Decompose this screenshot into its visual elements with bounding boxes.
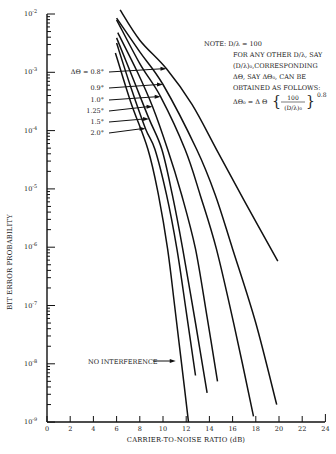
- y-tick-label: 10-5: [24, 183, 37, 193]
- y-tick-label: 10-6: [24, 241, 37, 251]
- x-tick-label: 0: [45, 425, 49, 433]
- y-tick-label: 10-3: [24, 66, 37, 76]
- arrow-line: [109, 129, 141, 133]
- curve-no-interference: [115, 53, 188, 422]
- delta-label: 2.0°: [90, 129, 104, 137]
- formula-brace-right: }: [306, 93, 315, 109]
- bit-error-chart: 10-210-310-410-510-610-710-810-9 0246810…: [0, 0, 336, 454]
- y-axis-tick-labels: 10-210-310-410-510-610-710-810-9: [24, 8, 37, 426]
- x-tick-label: 24: [321, 425, 329, 433]
- note-block: NOTE: D/λ = 100 FOR ANY OTHER D/λ, SAY (…: [204, 40, 327, 111]
- arrow-line: [109, 107, 148, 111]
- y-tick-label: 10-9: [24, 416, 37, 426]
- formula-brace-left: {: [272, 93, 281, 109]
- arrow-line: [109, 85, 158, 88]
- x-tick-label: 8: [138, 425, 142, 433]
- y-axis-ticks: [47, 14, 55, 422]
- delta-label: 1.5°: [90, 118, 104, 126]
- x-tick-label: 12: [182, 425, 190, 433]
- x-tick-label: 22: [298, 425, 306, 433]
- y-axis-title: BIT ERROR PROBABILITY: [6, 214, 14, 310]
- arrow-head-icon: [170, 359, 176, 363]
- delta-label: ΔΘ = 0.8°: [71, 68, 104, 76]
- formula-lhs: ΔΘ₀ = Δ Θ: [233, 98, 267, 106]
- note-line-3: (D/λ)₀,CORRESPONDING: [233, 62, 318, 70]
- x-tick-label: 20: [275, 425, 283, 433]
- formula-exponent: 0.8: [317, 91, 327, 98]
- delta-label: 1.0°: [90, 96, 104, 104]
- formula-numerator: 100: [287, 94, 299, 101]
- note-line-2: FOR ANY OTHER D/λ, SAY: [233, 51, 323, 59]
- note-line-4: ΔΘ, SAY ΔΘ₀, CAN BE: [233, 73, 306, 81]
- x-tick-label: 18: [252, 425, 260, 433]
- y-tick-label: 10-4: [24, 125, 37, 135]
- y-tick-label: 10-8: [24, 358, 37, 368]
- delta-label: 1.25°: [86, 107, 104, 115]
- x-axis-title: CARRIER-TO-NOISE RATIO (dB): [127, 436, 246, 444]
- x-tick-label: 2: [68, 425, 72, 433]
- delta-label-arrows: ΔΘ = 0.8°0.9°1.0°1.25°1.5°2.0°: [71, 67, 176, 363]
- note-line-5: OBTAINED AS FOLLOWS:: [233, 84, 320, 92]
- curve-1.25-: [118, 33, 218, 382]
- arrow-line: [109, 119, 144, 122]
- x-tick-label: 4: [91, 425, 95, 433]
- x-axis-tick-labels: 024681012141618202224: [45, 425, 330, 433]
- note-line-1: NOTE: D/λ = 100: [204, 40, 262, 48]
- x-tick-label: 16: [228, 425, 236, 433]
- x-tick-label: 6: [115, 425, 119, 433]
- formula-denominator: (D/λ)₀: [284, 104, 302, 111]
- x-tick-label: 14: [205, 425, 213, 433]
- no-interference-label: NO INTERFERENCE: [88, 358, 158, 366]
- delta-label: 0.9°: [90, 84, 104, 92]
- y-tick-label: 10-7: [24, 300, 37, 310]
- y-tick-label: 10-2: [24, 8, 37, 18]
- x-axis-ticks: [47, 414, 325, 422]
- x-tick-label: 10: [159, 425, 167, 433]
